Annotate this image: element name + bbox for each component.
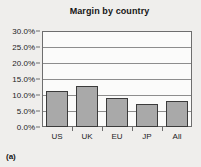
- bar-all: [166, 101, 188, 127]
- bar-slot: [162, 31, 192, 127]
- y-tick-mark: [36, 127, 40, 128]
- y-tick-mark: [36, 79, 40, 80]
- y-tick-mark: [36, 47, 40, 48]
- y-tick-label: 30.0%: [12, 27, 35, 36]
- x-tick-mark: [102, 127, 103, 131]
- x-tick-label-uk: UK: [81, 132, 92, 141]
- x-tick-label-eu: EU: [111, 132, 122, 141]
- bar-slot: [72, 31, 102, 127]
- bar-uk: [76, 86, 98, 127]
- y-tick-mark: [36, 111, 40, 112]
- y-tick-label: 5.0%: [17, 107, 35, 116]
- x-tick-label-jp: JP: [142, 132, 151, 141]
- x-tick-label-us: US: [51, 132, 62, 141]
- bar-series: [42, 31, 192, 127]
- x-tick-mark: [162, 127, 163, 131]
- bar-jp: [136, 104, 158, 127]
- y-tick-mark: [36, 31, 40, 32]
- y-tick-label: 10.0%: [12, 91, 35, 100]
- y-tick-label: 15.0%: [12, 75, 35, 84]
- chart-title: Margin by country: [0, 6, 201, 16]
- y-axis: 0.0%5.0%10.0%15.0%20.0%25.0%30.0%: [0, 31, 40, 127]
- bar-slot: [42, 31, 72, 127]
- figure-panel-a: Margin by country 0.0%5.0%10.0%15.0%20.0…: [0, 0, 201, 167]
- y-tick-label: 20.0%: [12, 59, 35, 68]
- bar-us: [46, 91, 68, 127]
- x-tick-mark: [72, 127, 73, 131]
- figure-caption: (a): [6, 152, 16, 161]
- bar-eu: [106, 98, 128, 127]
- x-tick-label-all: All: [173, 132, 182, 141]
- x-axis: USUKEUJPAll: [42, 127, 192, 149]
- y-tick-mark: [36, 63, 40, 64]
- y-tick-mark: [36, 95, 40, 96]
- y-tick-label: 25.0%: [12, 43, 35, 52]
- y-tick-label: 0.0%: [17, 123, 35, 132]
- x-tick-mark: [132, 127, 133, 131]
- bar-slot: [132, 31, 162, 127]
- bar-slot: [102, 31, 132, 127]
